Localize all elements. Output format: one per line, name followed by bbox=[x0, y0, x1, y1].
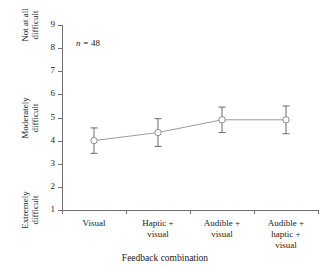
sample-size-annotation: n = 48 bbox=[76, 38, 100, 48]
chart-figure: Not at all difficult Moderately difficul… bbox=[0, 0, 330, 269]
x-category-line: Audible + bbox=[254, 218, 318, 229]
n-value: = 48 bbox=[81, 38, 101, 48]
x-axis-title: Feedback combination bbox=[0, 253, 330, 263]
data-point-group bbox=[283, 106, 290, 134]
x-category-label: Haptic +visual bbox=[126, 218, 190, 240]
x-category-line: Haptic + bbox=[126, 218, 190, 229]
x-category-line: Audible + bbox=[190, 218, 254, 229]
x-category-line: visual bbox=[190, 229, 254, 240]
x-category-line: Visual bbox=[62, 218, 126, 229]
data-point-marker bbox=[219, 117, 225, 123]
x-category-line: haptic + bbox=[254, 229, 318, 240]
data-point-group bbox=[91, 128, 98, 153]
data-point-marker bbox=[91, 137, 97, 143]
x-category-label: Audible +visual bbox=[190, 218, 254, 240]
data-point-group bbox=[155, 119, 162, 147]
series-line bbox=[94, 120, 286, 141]
x-category-line: visual bbox=[126, 229, 190, 240]
data-point-group bbox=[219, 107, 226, 132]
x-category-label: Visual bbox=[62, 218, 126, 229]
data-point-marker bbox=[155, 129, 161, 135]
x-category-label: Audible +haptic +visual bbox=[254, 218, 318, 251]
data-point-marker bbox=[283, 117, 289, 123]
x-category-line: visual bbox=[254, 240, 318, 251]
